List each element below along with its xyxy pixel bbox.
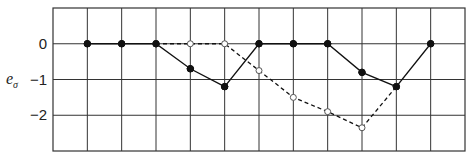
chart-grid [53, 8, 465, 151]
filled-circle-marker [256, 41, 262, 47]
open-circle-marker [222, 41, 228, 47]
filled-circle-marker [187, 66, 193, 72]
filled-circle-marker [393, 83, 399, 89]
y-axis-ticks: 0−1−2 [30, 35, 47, 124]
filled-circle-marker [153, 41, 159, 47]
filled-circle-marker [118, 41, 124, 47]
open-circle-marker [187, 41, 193, 47]
y-tick-label: −1 [30, 71, 47, 88]
filled-circle-marker [359, 69, 365, 75]
y-tick-label: 0 [39, 35, 47, 52]
filled-circle-marker [221, 83, 227, 89]
filled-circle-marker [290, 41, 296, 47]
open-circle-marker [290, 94, 296, 100]
filled-circle-marker [324, 41, 330, 47]
filled-circle-marker [84, 41, 90, 47]
open-circle-marker [359, 125, 365, 131]
line-chart: 0−1−2 eσ [0, 0, 474, 159]
filled-circle-marker [427, 41, 433, 47]
y-axis-label: eσ [6, 70, 19, 90]
open-circle-marker [325, 109, 331, 115]
y-tick-label: −2 [30, 106, 47, 123]
open-circle-marker [256, 68, 262, 74]
